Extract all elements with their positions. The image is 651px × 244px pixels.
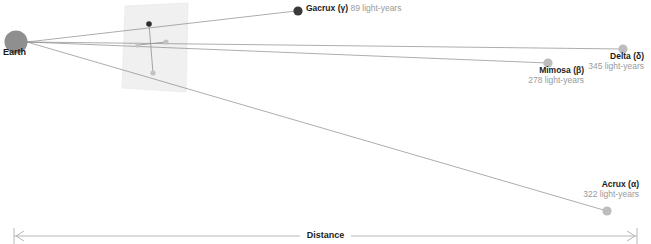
star-label-gacrux: Gacrux (γ) 89 light-years	[306, 4, 401, 14]
earth-label: Earth	[3, 47, 26, 57]
star-gacrux	[293, 6, 302, 15]
star-name-gacrux: Gacrux (γ)	[306, 3, 348, 13]
star-label-acrux: Acrux (α) 322 light-years	[527, 180, 639, 200]
star-acrux	[602, 206, 611, 215]
star-distance-delta: 345 light-years	[568, 62, 644, 72]
star-distance-acrux: 322 light-years	[527, 190, 639, 200]
projected-point-gacrux	[146, 21, 152, 27]
projected-point-acrux	[150, 70, 155, 75]
star-label-delta: Delta (δ) 345 light-years	[568, 52, 644, 72]
crux-perspective-diagram: Earth Gacrux (γ) 89 light-years Mimosa (…	[0, 0, 651, 244]
projected-point-mimosa	[135, 42, 140, 47]
distance-axis-text: Distance	[300, 230, 352, 240]
distance-axis-label: Distance	[0, 230, 651, 240]
diagram-canvas	[0, 0, 651, 244]
projected-point-delta	[163, 39, 168, 44]
star-distance-gacrux: 89 light-years	[350, 3, 401, 13]
star-distance-mimosa: 278 light-years	[500, 76, 584, 86]
